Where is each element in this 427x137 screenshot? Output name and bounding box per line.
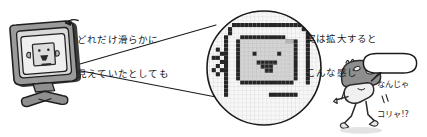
left-callout-line1: どれだけ滑らかに [77, 34, 169, 45]
speech-bubble-line1: なんじゃ [377, 79, 409, 89]
left-callout-text: どれだけ滑らかに 見えていたとしても [77, 12, 169, 102]
speech-bubble-line2: コリャ!? [377, 109, 409, 119]
right-callout-line1: 実は拡大すると [306, 33, 377, 44]
right-callout-text: 実は拡大すると こんな感じ [306, 11, 377, 101]
illustration-canvas: どれだけ滑らかに 見えていたとしても 実は拡大すると こんな感じ なんじゃ コリ… [0, 0, 427, 137]
crt-monitor [10, 21, 81, 106]
right-callout-line2: こんな感じ [306, 67, 377, 78]
left-callout-line2: 見えていたとしても [77, 68, 169, 79]
speech-bubble-text: なんじゃ コリャ!? [377, 58, 409, 137]
